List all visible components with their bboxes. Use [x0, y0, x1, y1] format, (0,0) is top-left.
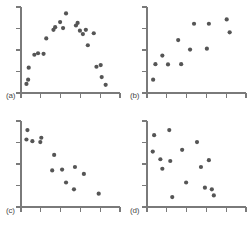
scatterplot-figure: (a) (b) (c) (d) [0, 0, 251, 229]
panel-c-label: (c) [6, 207, 15, 215]
panel-c: (c) [0, 114, 125, 228]
panel-b: (b) [126, 0, 251, 114]
panel-a: (a) [0, 0, 125, 114]
panel-b-label: (b) [130, 92, 139, 100]
panel-d-label: (d) [130, 207, 139, 215]
panel-d-plot [126, 114, 251, 228]
panel-c-plot [0, 114, 125, 228]
panel-d: (d) [126, 114, 251, 228]
panel-a-label: (a) [6, 92, 15, 100]
panel-a-plot [0, 0, 125, 114]
panel-b-plot [126, 0, 251, 114]
